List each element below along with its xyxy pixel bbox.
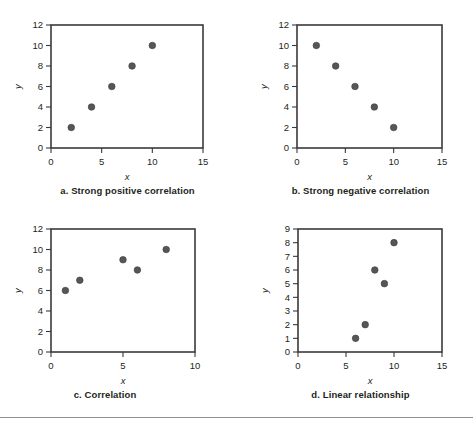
x-tick-label: 10: [388, 156, 399, 167]
y-tick-label: 2: [285, 319, 290, 330]
y-tick-label: 5: [285, 278, 290, 289]
plot-frame: [298, 229, 442, 352]
y-tick-label: 2: [284, 122, 289, 133]
data-point: [134, 267, 141, 274]
y-tick-label: 3: [285, 305, 290, 316]
y-axis-title: y: [258, 83, 269, 90]
figure-scatterplot-panels: 024681012051015xy a. Strong positive cor…: [0, 0, 473, 428]
x-tick-label: 15: [437, 360, 448, 371]
x-axis-title: x: [367, 375, 374, 386]
data-point: [390, 124, 397, 131]
y-tick-label: 4: [38, 305, 43, 316]
data-point: [62, 287, 69, 294]
data-point: [88, 104, 95, 111]
data-point: [352, 83, 359, 90]
y-tick-label: 12: [32, 223, 43, 234]
panel-a-caption: a. Strong positive correlation: [10, 185, 245, 196]
y-tick-label: 4: [285, 292, 290, 303]
y-tick-label: 12: [32, 19, 43, 30]
y-axis-title: y: [12, 83, 23, 90]
y-axis-title: y: [259, 287, 270, 294]
data-point: [109, 83, 116, 90]
data-point: [372, 267, 379, 274]
x-tick-label: 10: [190, 360, 201, 371]
y-tick-label: 8: [284, 60, 289, 71]
x-axis-title: x: [366, 171, 373, 182]
x-tick-label: 5: [343, 156, 348, 167]
panel-b-strong-negative-correlation: 024681012051015xy: [256, 14, 473, 184]
y-tick-label: 4: [38, 101, 43, 112]
y-tick-label: 7: [285, 251, 290, 262]
scatter-plot-c: 0246810120510xy: [10, 218, 225, 388]
x-tick-label: 0: [48, 156, 53, 167]
data-point: [129, 63, 136, 70]
y-tick-label: 2: [38, 326, 43, 337]
panel-c-correlation: 0246810120510xy: [10, 218, 225, 388]
panel-a-strong-positive-correlation: 024681012051015xy: [10, 14, 245, 184]
data-point: [362, 321, 369, 328]
footer-divider: [0, 417, 473, 418]
panel-d-linear-relationship: 0123456789051015xy: [256, 218, 473, 388]
data-point: [149, 42, 156, 49]
x-tick-label: 0: [48, 360, 53, 371]
y-axis-title: y: [12, 287, 23, 294]
x-tick-label: 5: [120, 360, 125, 371]
y-tick-label: 8: [38, 264, 43, 275]
y-tick-label: 10: [32, 244, 43, 255]
scatter-plot-a: 024681012051015xy: [10, 14, 245, 184]
y-tick-label: 6: [284, 81, 289, 92]
y-tick-label: 2: [38, 122, 43, 133]
y-tick-label: 1: [285, 333, 290, 344]
y-tick-label: 0: [284, 142, 289, 153]
y-tick-label: 6: [285, 264, 290, 275]
x-tick-label: 0: [294, 156, 299, 167]
y-tick-label: 9: [285, 223, 290, 234]
x-tick-label: 10: [389, 360, 400, 371]
plot-frame: [51, 229, 195, 352]
y-tick-label: 0: [38, 142, 43, 153]
data-point: [120, 256, 127, 263]
data-point: [352, 335, 359, 342]
y-tick-label: 8: [285, 237, 290, 248]
y-tick-label: 8: [38, 60, 43, 71]
panel-c-caption: c. Correlation: [10, 389, 200, 400]
data-point: [332, 63, 339, 70]
data-point: [381, 280, 388, 287]
scatter-plot-d: 0123456789051015xy: [256, 218, 473, 388]
x-tick-label: 0: [295, 360, 300, 371]
y-tick-label: 10: [32, 40, 43, 51]
data-point: [391, 239, 398, 246]
y-tick-label: 0: [285, 346, 290, 357]
x-tick-label: 15: [198, 156, 209, 167]
y-tick-label: 4: [284, 101, 289, 112]
data-point: [313, 42, 320, 49]
data-point: [163, 246, 170, 253]
y-tick-label: 10: [278, 40, 289, 51]
y-tick-label: 6: [38, 81, 43, 92]
x-tick-label: 10: [147, 156, 158, 167]
x-tick-label: 5: [343, 360, 348, 371]
y-tick-label: 0: [38, 346, 43, 357]
data-point: [371, 104, 378, 111]
panel-b-caption: b. Strong negative correlation: [248, 185, 473, 196]
x-axis-title: x: [124, 171, 131, 182]
scatter-plot-b: 024681012051015xy: [256, 14, 473, 184]
x-tick-label: 15: [437, 156, 448, 167]
data-point: [68, 124, 75, 131]
panel-d-caption: d. Linear relationship: [248, 389, 473, 400]
x-axis-title: x: [120, 375, 127, 386]
x-tick-label: 5: [99, 156, 104, 167]
data-point: [77, 277, 84, 284]
y-tick-label: 12: [278, 19, 289, 30]
y-tick-label: 6: [38, 285, 43, 296]
